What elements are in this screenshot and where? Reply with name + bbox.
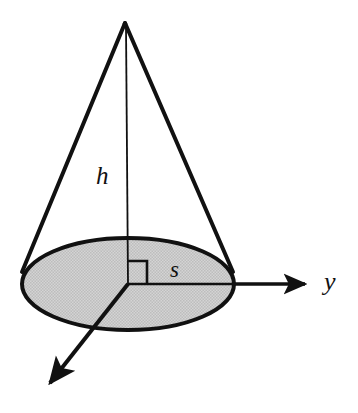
y-axis-label: y — [324, 269, 336, 295]
cone-apex — [123, 22, 128, 27]
cone-left-slant — [22, 23, 125, 272]
cone-figure-svg — [0, 0, 358, 413]
radius-label: s — [170, 258, 179, 281]
cone-right-slant — [125, 23, 233, 272]
cone-diagram: h s y — [0, 0, 358, 413]
height-label: h — [96, 163, 109, 188]
